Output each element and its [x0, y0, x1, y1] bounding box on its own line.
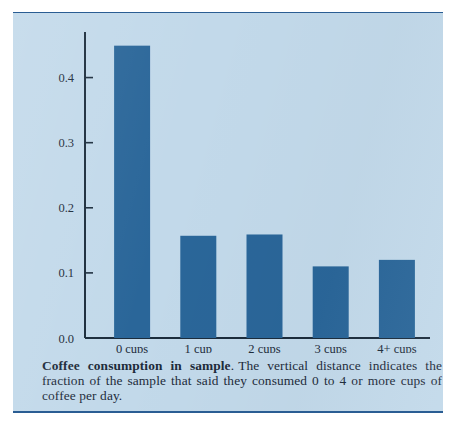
bar-series: [114, 46, 415, 338]
bar-chart: 0.00.10.20.30.4 0 cups1 cup2 cups3 cups4…: [13, 13, 443, 353]
y-axis-tick-label: 0.4: [58, 71, 74, 85]
figure-panel: 0.00.10.20.30.4 0 cups1 cup2 cups3 cups4…: [13, 13, 443, 412]
y-axis-tick-label: 0.1: [58, 266, 74, 280]
x-axis-tick-label: 3 cups: [315, 342, 347, 353]
x-axis-tick-label: 0 cups: [116, 342, 148, 353]
y-axis-tick-label: 0.0: [58, 332, 74, 346]
bar: [379, 260, 415, 338]
chart-svg: 0.00.10.20.30.4 0 cups1 cup2 cups3 cups4…: [13, 13, 443, 353]
figure-bottom-rule: [13, 411, 443, 413]
caption-title: Coffee consumption in sample: [42, 358, 231, 373]
caption-title-suffix: .: [231, 358, 234, 373]
bar: [247, 234, 283, 338]
x-axis-tick-label: 1 cup: [185, 342, 212, 353]
y-axis-tick-label: 0.3: [58, 136, 74, 150]
bar: [114, 46, 150, 338]
x-axis-tick-label: 4+ cups: [377, 342, 416, 353]
x-axis-tick-label: 2 cups: [248, 342, 280, 353]
x-axis-labels: 0 cups1 cup2 cups3 cups4+ cups: [116, 342, 417, 353]
bar: [180, 236, 216, 338]
y-axis-ticks: 0.00.10.20.30.4: [58, 71, 93, 345]
bar: [313, 266, 349, 338]
figure-caption: Coffee consumption in sample.The vertica…: [42, 358, 442, 404]
y-axis-tick-label: 0.2: [58, 201, 74, 215]
